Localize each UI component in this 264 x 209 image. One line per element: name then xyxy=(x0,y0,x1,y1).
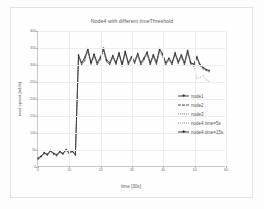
series-marker xyxy=(200,77,201,78)
series-marker xyxy=(174,52,176,54)
y-tick-mark xyxy=(36,31,38,32)
y-tick-label: 50 xyxy=(32,148,36,152)
y-tick-label: 300 xyxy=(30,63,36,67)
legend-item-label: node3 xyxy=(191,112,204,117)
gridline-vertical xyxy=(132,31,133,166)
y-tick-mark xyxy=(36,99,38,100)
legend-marker-icon: ✚ xyxy=(178,129,189,135)
series-marker xyxy=(181,58,182,59)
y-tick-label: 150 xyxy=(30,114,36,118)
gridline-vertical xyxy=(163,31,164,166)
x-tick-label: 40 xyxy=(161,168,165,172)
legend-item-node4-time-5s[interactable]: ·node4 time=5s xyxy=(178,120,223,126)
series-marker xyxy=(206,70,207,71)
series-marker xyxy=(112,58,113,59)
gridline-vertical xyxy=(101,31,102,166)
series-marker xyxy=(206,79,207,80)
series-marker xyxy=(106,62,107,63)
legend-item-label: node2 xyxy=(191,103,204,108)
y-tick-label: 100 xyxy=(30,131,36,135)
series-marker xyxy=(200,66,201,67)
x-axis-label: time [30s] xyxy=(37,184,225,189)
y-tick-mark xyxy=(36,65,38,66)
legend-marker-icon: · xyxy=(178,111,189,117)
y-tick-label: 0 xyxy=(34,165,36,169)
legend-item-label: node1 xyxy=(191,94,204,99)
y-tick-label: 200 xyxy=(30,97,36,101)
series-marker xyxy=(203,75,204,76)
y-tick-mark xyxy=(36,116,38,117)
legend-item-label: node4 time=5s xyxy=(191,121,221,126)
x-tick-label: 0 xyxy=(37,168,39,172)
legend-marker-icon: ✚ xyxy=(178,93,189,99)
legend-marker-icon: – xyxy=(178,102,189,108)
x-tick-label: 60 xyxy=(224,168,228,172)
series-marker xyxy=(209,72,210,73)
series-marker xyxy=(144,60,145,61)
y-tick-label: 400 xyxy=(30,29,36,33)
series-marker xyxy=(47,155,48,156)
series-marker xyxy=(134,62,135,63)
legend-item-node3[interactable]: ·node3 xyxy=(178,111,223,117)
y-tick-label: 250 xyxy=(30,80,36,84)
legend-item-node1[interactable]: ✚node1 xyxy=(178,93,223,99)
y-tick-label: 350 xyxy=(30,46,36,50)
legend-item-label: node4 time=15s xyxy=(191,130,223,135)
y-axis-label: read speed [mb/s] xyxy=(17,82,22,116)
series-marker xyxy=(112,57,113,58)
series-marker xyxy=(118,52,120,54)
series-marker xyxy=(187,49,189,51)
legend-item-node4-time-15s[interactable]: ✚node4 time=15s xyxy=(178,129,223,135)
legend-item-node2[interactable]: –node2 xyxy=(178,102,223,108)
y-tick-mark xyxy=(36,150,38,151)
series-marker xyxy=(168,60,169,61)
x-tick-label: 20 xyxy=(99,168,103,172)
series-marker xyxy=(197,78,198,79)
legend-marker-icon: · xyxy=(178,120,189,126)
series-marker xyxy=(53,154,54,155)
x-tick-label: 30 xyxy=(130,168,134,172)
chart-page: Node4 with different timeThreshold read … xyxy=(0,0,264,209)
y-tick-mark xyxy=(36,48,38,49)
gridline-vertical xyxy=(69,31,70,166)
chart-title: Node4 with different timeThreshold xyxy=(0,18,264,24)
x-tick-label: 10 xyxy=(67,168,71,172)
x-tick-label: 50 xyxy=(193,168,197,172)
series-marker xyxy=(178,62,179,63)
gridline-vertical xyxy=(226,31,227,166)
series-marker xyxy=(75,155,76,156)
y-tick-mark xyxy=(36,82,38,83)
y-tick-mark xyxy=(36,133,38,134)
legend: ✚node1–node2·node3·node4 time=5s✚node4 t… xyxy=(178,93,223,135)
series-marker xyxy=(203,69,204,70)
